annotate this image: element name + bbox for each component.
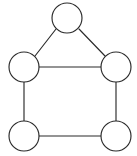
graph-node-right-lower [101,121,131,151]
graph-node-left-lower [9,121,39,151]
graph-diagram-canvas [0,0,137,156]
graph-node-left-upper [9,52,39,82]
graph-edge-apex-left-upper [35,29,56,56]
edge-layer [24,29,116,136]
node-layer [9,3,131,151]
graph-node-apex [52,3,82,33]
graph-svg [0,0,137,156]
graph-node-right-upper [101,52,131,82]
graph-edge-apex-right-upper [79,29,105,56]
